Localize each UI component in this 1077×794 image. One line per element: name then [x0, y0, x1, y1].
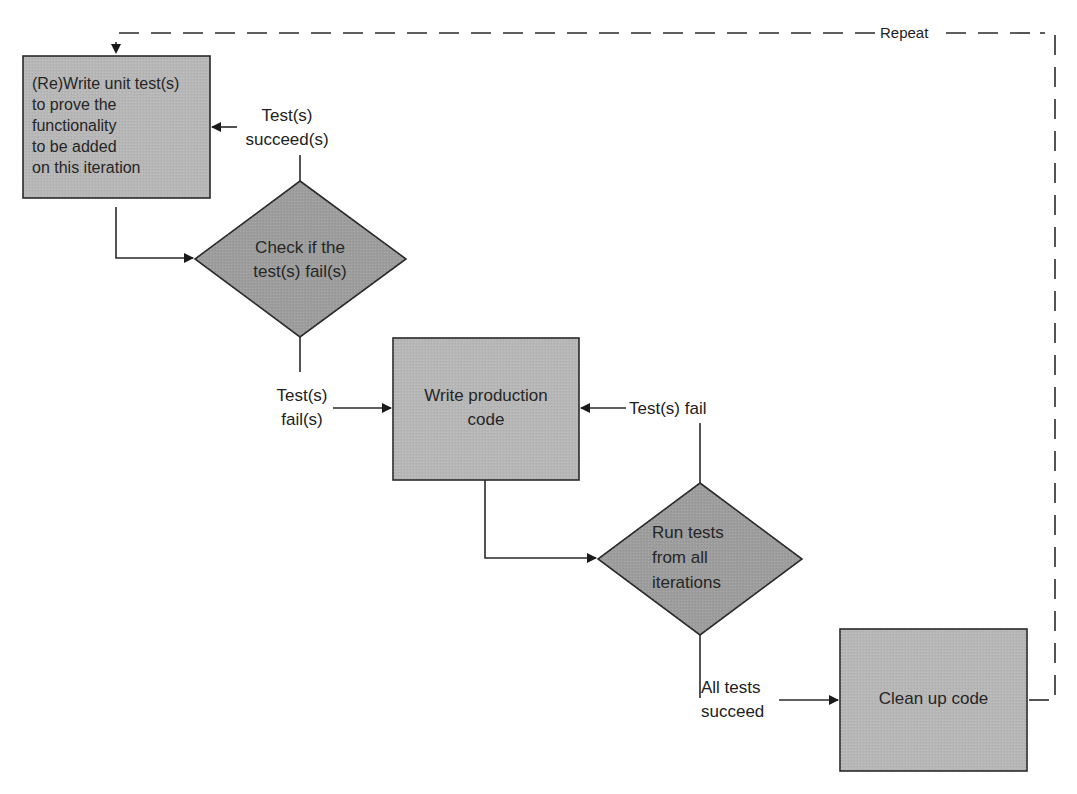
node-run-tests-label: Run tests from all iterations [652, 520, 724, 595]
edge-label-run-fail: Test(s) fail [629, 398, 706, 419]
edge-label-succeed: Test(s) succeed(s) [232, 104, 342, 152]
edge-code-to-run [485, 480, 596, 558]
node-write-tests-label: (Re)Write unit test(s) to prove the func… [32, 73, 179, 178]
node-check-fail-label: Check if the test(s) fail(s) [220, 236, 380, 284]
repeat-arrowhead-icon [111, 44, 121, 54]
edge-label-all-succeed: All tests succeed [701, 676, 764, 724]
edge-label-repeat: Repeat [878, 22, 930, 43]
node-clean-up-label: Clean up code [840, 688, 1027, 709]
edge-tests-to-check [116, 207, 193, 258]
edge-label-fail: Test(s) fail(s) [272, 384, 332, 432]
node-write-code-label: Write production code [393, 384, 579, 432]
